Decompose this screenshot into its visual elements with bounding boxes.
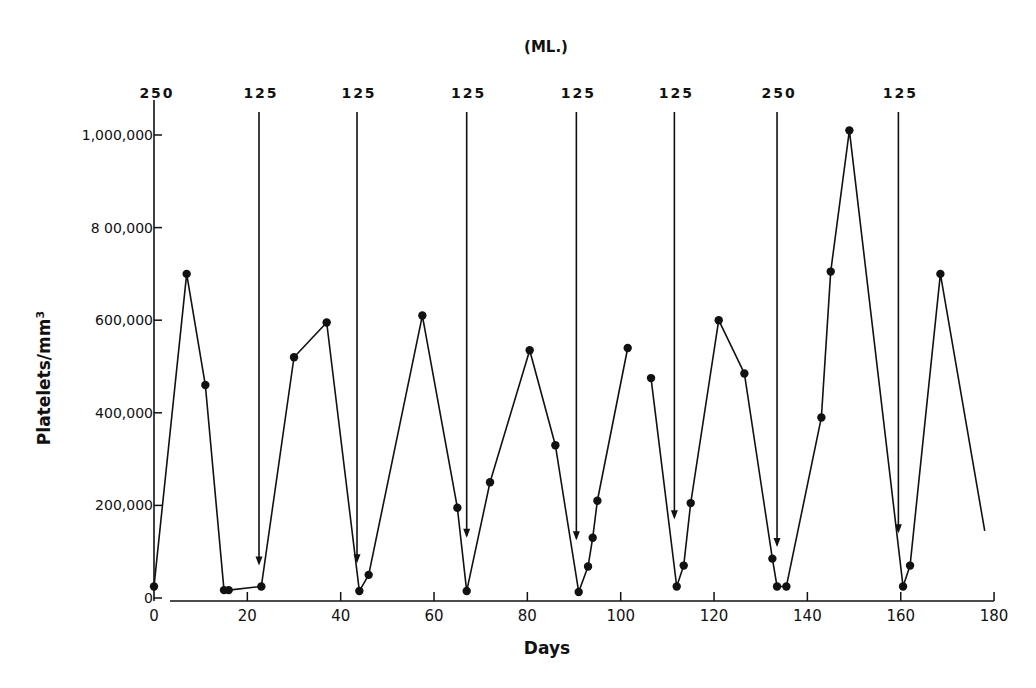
arrow-volume-label: 125 bbox=[659, 85, 694, 101]
data-point bbox=[817, 413, 825, 421]
data-point bbox=[827, 267, 835, 275]
y-tick-label: 200,000 bbox=[95, 497, 153, 513]
x-tick-label: 80 bbox=[518, 607, 537, 625]
x-tick-label: 100 bbox=[606, 607, 635, 625]
y-axis-label: Platelets/mm3 bbox=[34, 311, 55, 445]
data-point bbox=[647, 374, 655, 382]
arrowhead-icon bbox=[573, 531, 580, 540]
x-tick-label: 140 bbox=[793, 607, 822, 625]
y-tick-label: 1,000,000 bbox=[82, 127, 153, 143]
arrow-volume-label: 125 bbox=[243, 85, 278, 101]
x-tick-label: 160 bbox=[886, 607, 915, 625]
data-point bbox=[525, 346, 533, 354]
data-point bbox=[715, 316, 723, 324]
y-tick-label: 400,000 bbox=[95, 405, 153, 421]
data-point bbox=[593, 497, 601, 505]
data-point bbox=[486, 478, 494, 486]
data-point bbox=[773, 582, 781, 590]
data-point bbox=[574, 588, 582, 596]
x-tick-label: 40 bbox=[331, 607, 350, 625]
data-point bbox=[257, 582, 265, 590]
arrow-volume-label: 250 bbox=[761, 85, 796, 101]
arrowhead-icon bbox=[671, 510, 678, 519]
data-point bbox=[453, 504, 461, 512]
data-point bbox=[551, 441, 559, 449]
chart-title: (ML.) bbox=[524, 38, 568, 56]
x-tick-label: 120 bbox=[700, 607, 729, 625]
y-tick-label: 600,000 bbox=[95, 312, 153, 328]
arrow-volume-label: 250 bbox=[139, 85, 174, 101]
data-point bbox=[182, 270, 190, 278]
data-point bbox=[150, 582, 158, 590]
data-point bbox=[680, 561, 688, 569]
x-tick-label: 20 bbox=[238, 607, 257, 625]
x-ticks: 020406080100120140160180 bbox=[149, 592, 1008, 625]
data-point bbox=[782, 582, 790, 590]
arrowhead-icon bbox=[256, 557, 263, 566]
x-axis-label: Days bbox=[524, 638, 570, 658]
arrow-volume-label: 125 bbox=[341, 85, 376, 101]
data-point bbox=[768, 554, 776, 562]
arrow-volume-label: 125 bbox=[883, 85, 918, 101]
data-point bbox=[418, 311, 426, 319]
data-point bbox=[740, 369, 748, 377]
data-point bbox=[224, 586, 232, 594]
y-ticks: 0200,000400,000600,0008 00,0001,000,000 bbox=[82, 127, 162, 606]
data-point bbox=[584, 562, 592, 570]
x-tick-label: 60 bbox=[424, 607, 443, 625]
platelet-chart: (ML.) Platelets/mm3 Days 0200,000400,000… bbox=[0, 0, 1036, 688]
data-point bbox=[364, 571, 372, 579]
data-point bbox=[899, 582, 907, 590]
y-tick-label: 0 bbox=[144, 590, 153, 606]
svg-text:Platelets/mm3: Platelets/mm3 bbox=[34, 311, 55, 445]
data-point bbox=[624, 344, 632, 352]
x-tick-label: 180 bbox=[980, 607, 1009, 625]
axes bbox=[154, 100, 994, 601]
data-point bbox=[687, 499, 695, 507]
data-point bbox=[845, 126, 853, 134]
data-point bbox=[290, 353, 298, 361]
data-point bbox=[936, 270, 944, 278]
platelet-series bbox=[150, 126, 985, 596]
data-point bbox=[201, 381, 209, 389]
arrow-volume-label: 125 bbox=[451, 85, 486, 101]
data-point bbox=[322, 318, 330, 326]
data-point bbox=[906, 561, 914, 569]
series-line bbox=[651, 130, 985, 586]
arrow-volume-label: 125 bbox=[561, 85, 596, 101]
data-point bbox=[355, 587, 363, 595]
data-point bbox=[673, 582, 681, 590]
arrowhead-icon bbox=[463, 529, 470, 538]
data-point bbox=[588, 534, 596, 542]
transfusion-arrows: 250125125125125125250125 bbox=[139, 85, 918, 566]
y-tick-label: 8 00,000 bbox=[91, 220, 153, 236]
series-line bbox=[154, 274, 628, 592]
data-point bbox=[462, 587, 470, 595]
x-tick-label: 0 bbox=[149, 607, 159, 625]
arrowhead-icon bbox=[774, 538, 781, 547]
